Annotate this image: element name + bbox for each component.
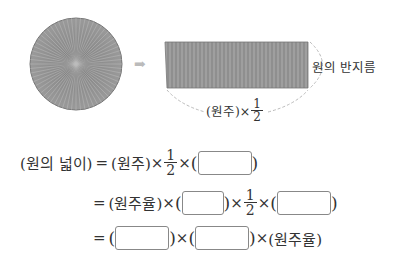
pi-term: (원주율) [109, 192, 163, 213]
formula-line-1: (원의 넓이) = (원주) × 12 × ( ) [20, 148, 258, 177]
formula-line-2: = (원주율) × ( ) × 12 × ( ) [93, 188, 338, 217]
area-term: (원의 넓이) [20, 152, 92, 173]
answer-box-3[interactable] [277, 191, 331, 215]
answer-box-2[interactable] [182, 191, 224, 215]
open-paren: ( [175, 193, 182, 213]
open-paren: ( [191, 153, 198, 173]
close-paren: ) [249, 228, 256, 248]
times-sign: × [151, 154, 164, 172]
equals-sign: = [93, 194, 106, 212]
pi-term: (원주율) [268, 228, 322, 249]
base-label: (원주)× 1 2 [206, 98, 264, 123]
open-paren: ( [270, 193, 277, 213]
base-label-text: (원주)× [206, 101, 250, 120]
circumference-term: (원주) [111, 152, 151, 173]
answer-box-4[interactable] [115, 226, 169, 250]
fraction-numerator: 1 [244, 188, 257, 203]
open-paren: ( [188, 228, 195, 248]
times-sign: × [258, 194, 271, 212]
arrow-right-icon: ➡ [134, 56, 146, 72]
fraction-numerator: 1 [164, 148, 177, 163]
times-sign: × [176, 229, 189, 247]
formula-line-3: = ( ) × ( ) × (원주율) [93, 226, 322, 250]
times-sign: × [162, 194, 175, 212]
times-sign: × [256, 229, 269, 247]
answer-box-1[interactable] [198, 151, 252, 175]
answer-box-5[interactable] [195, 226, 249, 250]
fraction-denominator: 2 [244, 203, 257, 217]
equals-sign: = [95, 154, 108, 172]
fraction-denominator: 2 [164, 163, 177, 177]
open-paren: ( [109, 228, 116, 248]
times-sign: × [230, 194, 243, 212]
close-paren: ) [331, 193, 338, 213]
times-sign: × [178, 154, 191, 172]
fraction-denominator: 2 [251, 111, 263, 123]
close-paren: ) [224, 193, 231, 213]
close-paren: ) [169, 228, 176, 248]
close-paren: ) [252, 153, 259, 173]
equals-sign: = [93, 229, 106, 247]
radius-label: 원의 반지름 [312, 57, 376, 76]
sectored-circle [28, 16, 124, 112]
